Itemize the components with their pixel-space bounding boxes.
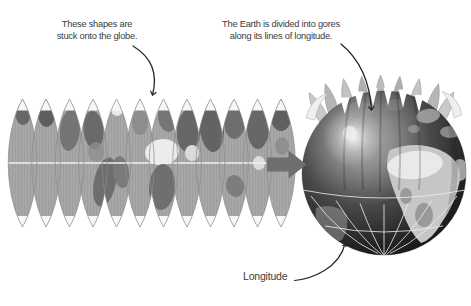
left-note-arrow (133, 46, 154, 95)
gores-diagram: These shapes are stuck onto the globe. T… (0, 0, 471, 306)
globe-illustration (302, 75, 468, 256)
diagram-artwork (0, 0, 471, 306)
right-note-label: The Earth is divided into gores along it… (206, 19, 356, 42)
left-note-label: These shapes are stuck onto the globe. (24, 19, 170, 42)
longitude-label: Longitude (243, 270, 287, 282)
longitude-leader-line (295, 244, 346, 281)
gore-strip-illustration (6, 95, 298, 228)
